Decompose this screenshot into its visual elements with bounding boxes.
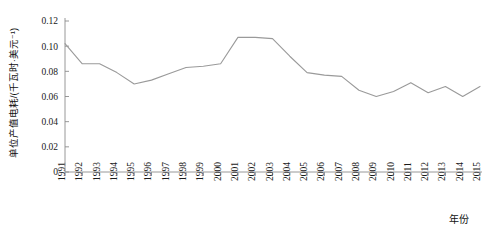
data-series-line <box>65 37 480 96</box>
x-tick-label: 1997 <box>161 162 171 181</box>
y-tick-label: 0.02 <box>41 142 58 152</box>
x-tick-label: 1993 <box>92 162 102 181</box>
y-tick-label: 0.08 <box>41 67 58 77</box>
x-tick-label: 2003 <box>265 162 275 181</box>
x-tick-label: 1998 <box>178 162 188 181</box>
x-tick-label: 2009 <box>368 162 378 181</box>
x-tick-label: 2010 <box>386 162 396 181</box>
x-tick-label: 2015 <box>472 162 482 181</box>
x-tick-label: 2001 <box>230 162 240 181</box>
x-tick-label: 1996 <box>143 162 153 181</box>
x-tick-label: 2002 <box>247 162 257 181</box>
chart-figure: 单位产值电耗/(千瓦时·美元⁻¹) 00.020.040.060.080.100… <box>0 0 498 237</box>
x-tick-label: 2000 <box>213 162 223 181</box>
x-tick-label: 2006 <box>316 162 326 181</box>
y-tick-label: 0.12 <box>41 16 58 26</box>
line-chart-plot: 00.020.040.060.080.100.12 19911992199319… <box>0 0 498 237</box>
x-tick-label: 1994 <box>109 162 119 181</box>
x-tick-label: 1999 <box>195 162 205 181</box>
x-tick-label: 2004 <box>282 162 292 181</box>
x-tick-label: 1991 <box>57 162 67 181</box>
x-tick-label: 1992 <box>74 162 84 181</box>
y-tick-label: 0.06 <box>41 92 58 102</box>
y-tick-label: 0.04 <box>41 117 58 127</box>
x-axis-tick-group: 1991199219931994199519961997199819992000… <box>57 162 482 181</box>
x-axis-title: 年份 <box>449 211 469 226</box>
y-tick-label: 0.10 <box>41 42 58 52</box>
x-tick-label: 2007 <box>334 162 344 181</box>
x-tick-label: 1995 <box>126 162 136 181</box>
x-tick-label: 2014 <box>455 162 465 181</box>
x-tick-label: 2008 <box>351 162 361 181</box>
x-tick-label: 2005 <box>299 162 309 181</box>
x-tick-label: 2012 <box>420 162 430 181</box>
x-tick-label: 2013 <box>437 162 447 181</box>
